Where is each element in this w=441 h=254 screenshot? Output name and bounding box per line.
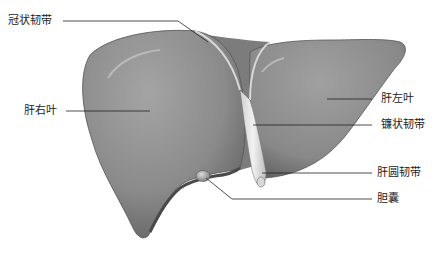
label-left-lobe: 肝左叶 [381,92,414,105]
round-ligament-end [257,177,265,187]
liver-illustration [0,0,441,254]
left-lobe-shape [250,40,406,179]
label-right-lobe: 肝右叶 [24,104,57,117]
leader-gallbladder [206,178,372,199]
label-falciform-ligament: 镰状韧带 [381,118,425,131]
liver-diagram: 冠状韧带 肝右叶 肝左叶 镰状韧带 肝圆韧带 胆囊 [0,0,441,254]
label-coronary-ligament: 冠状韧带 [8,14,52,27]
label-gallbladder: 胆囊 [377,192,399,205]
label-round-ligament: 肝圆韧带 [377,166,421,179]
